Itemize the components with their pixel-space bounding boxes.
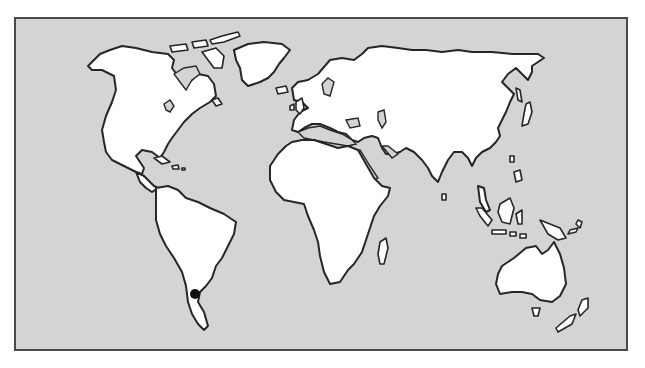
arctic-island	[192, 40, 208, 48]
new-zealand-north	[578, 298, 588, 316]
lesser-sunda	[520, 234, 526, 238]
madagascar	[378, 238, 388, 264]
lesser-sunda	[510, 232, 516, 236]
world-map-frame	[14, 17, 628, 351]
caribbean-island	[182, 168, 185, 170]
world-map	[16, 19, 628, 351]
cuba	[154, 156, 170, 164]
pacific-island	[568, 228, 578, 234]
sakhalin	[516, 88, 522, 102]
new-guinea	[540, 220, 566, 240]
philippines	[514, 170, 522, 182]
central-america	[136, 172, 158, 192]
sri-lanka	[442, 194, 446, 200]
pacific-island	[576, 220, 582, 228]
australia	[496, 242, 566, 302]
sulawesi	[516, 210, 522, 224]
greenland	[234, 42, 290, 86]
borneo	[498, 198, 514, 224]
baffin-island	[202, 48, 224, 68]
africa	[270, 140, 390, 284]
java	[492, 230, 506, 234]
ireland	[290, 104, 294, 110]
arctic-island	[210, 32, 240, 44]
newfoundland	[212, 98, 222, 106]
north-america	[88, 46, 216, 174]
taiwan	[510, 156, 514, 162]
arctic-island	[170, 44, 188, 52]
hispaniola	[172, 165, 179, 169]
japan	[522, 102, 532, 126]
south-america	[156, 186, 236, 330]
location-marker[interactable]	[190, 289, 200, 299]
tasmania	[532, 308, 540, 316]
new-zealand-south	[556, 314, 576, 332]
iceland	[276, 86, 288, 94]
